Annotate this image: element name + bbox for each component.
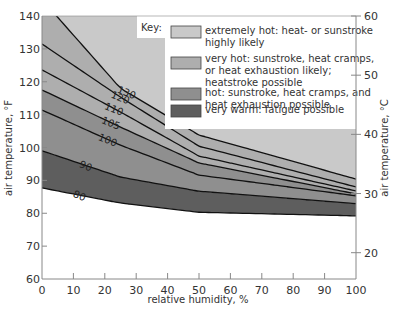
y-right-tick-label: 40 bbox=[364, 128, 378, 141]
y-tick-label: 130 bbox=[19, 43, 40, 56]
y-tick-label: 80 bbox=[26, 207, 40, 220]
y-tick-label: 90 bbox=[26, 174, 40, 187]
y-right-tick-label: 60 bbox=[364, 10, 378, 23]
x-tick-label: 20 bbox=[98, 284, 112, 297]
y-tick-label: 140 bbox=[19, 10, 40, 23]
y-tick-label: 60 bbox=[26, 273, 40, 286]
x-tick-label: 30 bbox=[129, 284, 143, 297]
legend-title: Key: bbox=[141, 22, 162, 33]
x-tick-label: 10 bbox=[66, 284, 80, 297]
legend-label: very hot: sunstroke, heat cramps, bbox=[205, 53, 374, 64]
y-right-tick-label: 20 bbox=[364, 247, 378, 260]
legend: Key:extremely hot: heat- or sunstrokehig… bbox=[137, 16, 374, 129]
y-right-tick-label: 30 bbox=[364, 188, 378, 201]
y-right-tick-label: 50 bbox=[364, 69, 378, 82]
x-tick-label: 70 bbox=[255, 284, 269, 297]
y-tick-label: 110 bbox=[19, 109, 40, 122]
y-axis-right-label: air temperature, °C bbox=[379, 99, 390, 196]
legend-label: very warm: fatigue possible bbox=[205, 104, 344, 115]
heat-index-chart: 8090100105110120130 Key:extremely hot: h… bbox=[0, 0, 397, 310]
legend-label: highly likely bbox=[205, 37, 265, 48]
x-axis-label: relative humidity, % bbox=[148, 294, 249, 305]
legend-label: or heat exhaustion likely; bbox=[205, 65, 332, 76]
y-tick-label: 120 bbox=[19, 76, 40, 89]
y-axis-label: air temperature, °F bbox=[3, 100, 14, 196]
legend-label: extremely hot: heat- or sunstroke bbox=[205, 25, 373, 36]
legend-swatch bbox=[171, 105, 201, 117]
legend-swatch bbox=[171, 26, 201, 38]
x-tick-label: 90 bbox=[318, 284, 332, 297]
legend-swatch bbox=[171, 57, 201, 69]
legend-swatch bbox=[171, 88, 201, 100]
x-tick-label: 80 bbox=[286, 284, 300, 297]
legend-label: hot: sunstroke, heat cramps, and bbox=[205, 87, 371, 98]
y-tick-label: 70 bbox=[26, 240, 40, 253]
x-tick-label: 100 bbox=[346, 284, 367, 297]
y-tick-label: 100 bbox=[19, 142, 40, 155]
